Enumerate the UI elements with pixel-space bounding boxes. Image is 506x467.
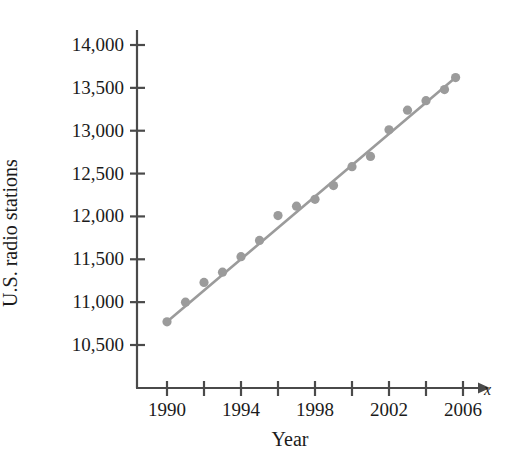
y-axis-tick-label: 13,500 <box>0 77 124 99</box>
data-point <box>292 202 301 211</box>
data-point <box>440 85 449 94</box>
data-point <box>162 317 171 326</box>
data-point <box>451 73 460 82</box>
x-axis-title: Year <box>272 428 309 451</box>
data-point <box>218 268 227 277</box>
data-point <box>255 236 264 245</box>
data-point <box>347 162 356 171</box>
data-point <box>329 181 338 190</box>
data-point <box>366 152 375 161</box>
x-axis-variable-label: x <box>484 381 491 399</box>
x-axis-tick-label: 2002 <box>370 399 408 421</box>
y-axis-tick-label: 14,000 <box>0 34 124 56</box>
data-point <box>421 96 430 105</box>
data-point <box>199 278 208 287</box>
x-axis-tick-label: 1998 <box>296 399 334 421</box>
scatter-plot-canvas <box>0 0 506 467</box>
data-point <box>236 252 245 261</box>
data-point <box>181 298 190 307</box>
data-point <box>273 211 282 220</box>
axes <box>136 30 490 394</box>
y-axis-title: U.S. radio stations <box>0 103 22 363</box>
chart-figure: 10,50011,00011,50012,00012,50013,00013,5… <box>0 0 506 467</box>
x-axis-tick-label: 1990 <box>148 399 186 421</box>
x-axis-tick-label: 1994 <box>222 399 260 421</box>
data-point <box>310 195 319 204</box>
data-point <box>384 125 393 134</box>
data-point <box>403 106 412 115</box>
x-axis-tick-label: 2006 <box>444 399 482 421</box>
